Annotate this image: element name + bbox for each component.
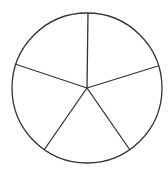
- pie-diagram: [0, 0, 168, 171]
